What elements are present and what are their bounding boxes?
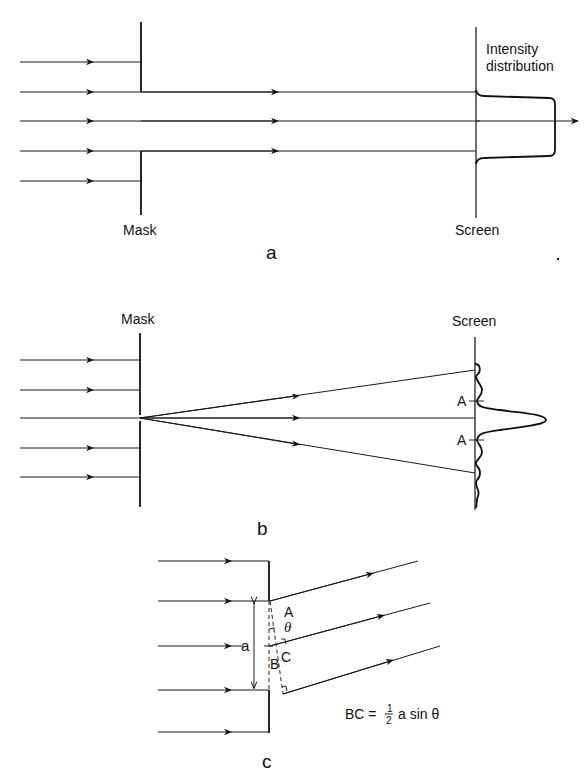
- panel-b: Mask Screen A A b: [20, 311, 546, 539]
- equation-fraction-numerator: 1: [387, 703, 393, 714]
- wavefront-dashed: [270, 601, 283, 694]
- intensity-label-line1: Intensity: [486, 41, 538, 57]
- mask-label: Mask: [123, 222, 157, 238]
- stray-dot: [557, 258, 559, 260]
- marker-A-upper: A: [457, 393, 467, 409]
- point-B-label: B: [270, 656, 279, 672]
- incident-rays: [158, 561, 273, 732]
- diffracted-rays: [270, 561, 440, 694]
- panel-caption-a: a: [266, 242, 277, 263]
- point-C-label: C: [281, 649, 291, 665]
- path-difference-equation: BC = 1 2 a sin θ: [345, 703, 439, 726]
- diffracted-rays: [140, 370, 475, 473]
- panel-c: a A θ C B BC = 1 2 a sin θ c: [158, 561, 440, 772]
- marker-A-lower: A: [457, 432, 467, 448]
- intensity-label-line2: distribution: [486, 58, 554, 74]
- right-angle-marker: [282, 686, 287, 691]
- equation-fraction-denominator: 2: [386, 715, 392, 726]
- equation-lhs: BC =: [345, 706, 377, 722]
- screen-label: Screen: [452, 313, 496, 329]
- intensity-curve-b: [475, 364, 546, 508]
- incident-rays: [20, 360, 140, 477]
- panel-caption-b: b: [257, 518, 268, 539]
- angle-theta-label: θ: [284, 619, 292, 635]
- point-A-label: A: [284, 604, 294, 620]
- equation-rhs: a sin θ: [398, 706, 439, 722]
- screen-label: Screen: [455, 222, 499, 238]
- transmitted-rays: [88, 92, 480, 151]
- mask-label: Mask: [121, 311, 155, 327]
- panel-a: Intensity distribution Mask Screen a: [20, 22, 578, 263]
- slit-width-label: a: [241, 637, 250, 654]
- panel-caption-c: c: [262, 751, 272, 772]
- diffraction-figure: Intensity distribution Mask Screen a Mas…: [0, 0, 584, 776]
- intensity-curve-a: [476, 90, 555, 164]
